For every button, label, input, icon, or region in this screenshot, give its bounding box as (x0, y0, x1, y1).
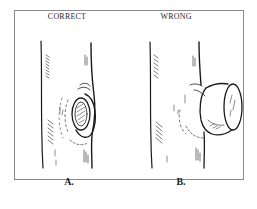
panel-a-drawing (41, 41, 95, 168)
panel-b-drawing (150, 42, 242, 168)
panel-b-label: B. (166, 176, 196, 187)
panel-a-label: A. (54, 176, 84, 187)
pruning-illustration (0, 0, 257, 209)
